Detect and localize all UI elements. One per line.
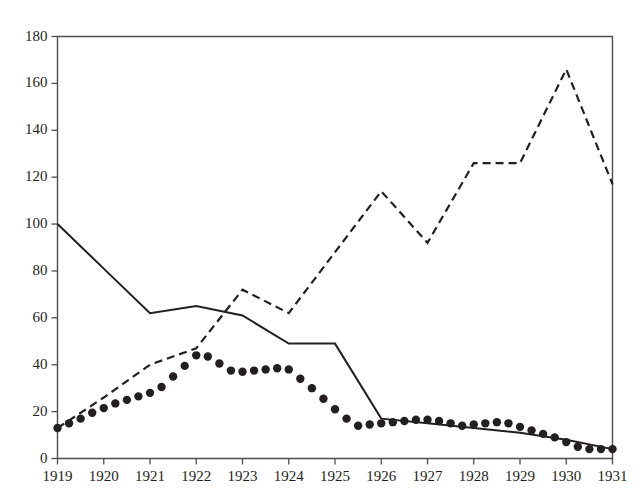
data-point-marker	[481, 419, 489, 427]
data-point-marker	[238, 368, 246, 376]
x-axis-label: 1919	[35, 469, 81, 484]
data-point-marker	[550, 433, 558, 441]
dashed-series-line	[58, 69, 613, 428]
data-point-marker	[504, 419, 512, 427]
chart-plot-area	[0, 0, 642, 504]
data-point-marker	[562, 438, 570, 446]
y-axis-label: 160	[25, 75, 48, 90]
data-point-marker	[597, 445, 605, 453]
data-point-marker	[423, 416, 431, 424]
data-point-marker	[180, 362, 188, 370]
y-axis-label: 140	[25, 122, 48, 137]
data-point-marker	[539, 430, 547, 438]
line-chart: 1801601401201008060402001919192019211922…	[0, 0, 642, 504]
x-axis-label: 1921	[127, 469, 173, 484]
data-point-marker	[296, 375, 304, 383]
data-point-marker	[227, 366, 235, 374]
x-axis-label: 1927	[405, 469, 451, 484]
data-point-marker	[100, 404, 108, 412]
data-point-marker	[285, 365, 293, 373]
data-point-marker	[331, 405, 339, 413]
data-point-marker	[377, 419, 385, 427]
data-point-marker	[527, 426, 535, 434]
x-axis-label: 1926	[358, 469, 404, 484]
x-axis-label: 1931	[590, 469, 636, 484]
y-axis-label: 100	[25, 216, 48, 231]
data-point-marker	[169, 372, 177, 380]
data-point-marker	[319, 395, 327, 403]
data-point-marker	[134, 392, 142, 400]
data-point-marker	[389, 418, 397, 426]
data-point-marker	[65, 419, 73, 427]
y-axis-label: 60	[33, 310, 48, 325]
y-axis-label: 20	[33, 404, 48, 419]
data-point-marker	[123, 396, 131, 404]
data-point-marker	[516, 423, 524, 431]
data-point-marker	[111, 399, 119, 407]
x-axis-label: 1928	[451, 469, 497, 484]
y-axis-label: 180	[25, 29, 48, 44]
data-point-marker	[192, 351, 200, 359]
data-point-marker	[493, 418, 501, 426]
data-point-marker	[458, 421, 466, 429]
data-point-marker	[308, 384, 316, 392]
x-axis-label: 1923	[220, 469, 266, 484]
data-point-marker	[273, 364, 281, 372]
x-axis-label: 1929	[497, 469, 543, 484]
x-axis-label: 1925	[312, 469, 358, 484]
y-axis-label: 80	[33, 263, 48, 278]
data-point-marker	[574, 443, 582, 451]
data-point-marker	[400, 417, 408, 425]
data-point-marker	[261, 365, 269, 373]
data-point-marker	[608, 445, 616, 453]
x-axis-label: 1924	[266, 469, 312, 484]
data-point-marker	[585, 445, 593, 453]
data-point-marker	[53, 424, 61, 432]
data-point-marker	[412, 416, 420, 424]
data-point-marker	[76, 414, 84, 422]
data-point-marker	[446, 419, 454, 427]
data-point-marker	[435, 417, 443, 425]
data-point-marker	[470, 420, 478, 428]
data-point-marker	[88, 409, 96, 417]
data-point-marker	[342, 414, 350, 422]
data-point-marker	[354, 421, 362, 429]
x-axis-label: 1920	[81, 469, 127, 484]
data-point-marker	[204, 352, 212, 360]
solid-series-line	[58, 224, 613, 449]
x-axis-label: 1930	[543, 469, 589, 484]
x-axis-label: 1922	[173, 469, 219, 484]
data-point-marker	[215, 359, 223, 367]
y-axis-label: 40	[33, 357, 48, 372]
y-axis-label: 120	[25, 169, 48, 184]
data-point-marker	[365, 420, 373, 428]
data-point-marker	[146, 389, 154, 397]
data-point-marker	[157, 383, 165, 391]
y-axis-label: 0	[40, 451, 48, 466]
data-point-marker	[250, 366, 258, 374]
